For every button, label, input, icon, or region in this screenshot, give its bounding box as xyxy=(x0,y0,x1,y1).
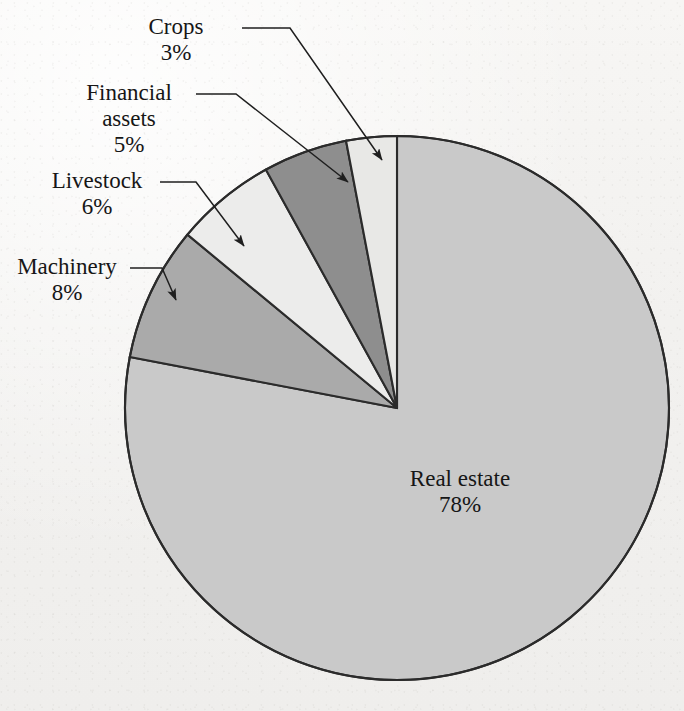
label-machinery: Machinery 8% xyxy=(4,254,130,306)
label-livestock-name: Livestock xyxy=(52,168,143,193)
pie-chart-figure: Crops 3% Financial assets 5% Livestock 6… xyxy=(0,0,684,711)
label-financial-assets-line2: assets xyxy=(66,106,192,132)
label-financial-assets-line1: Financial xyxy=(86,80,172,105)
label-real-estate-name: Real estate xyxy=(410,466,510,491)
label-crops: Crops 3% xyxy=(116,14,236,66)
label-real-estate-percent: 78% xyxy=(380,492,540,518)
label-livestock-percent: 6% xyxy=(36,194,158,220)
label-crops-name: Crops xyxy=(149,14,204,39)
label-financial-assets-percent: 5% xyxy=(66,132,192,158)
label-machinery-name: Machinery xyxy=(17,254,117,279)
label-financial-assets: Financial assets 5% xyxy=(66,80,192,157)
label-livestock: Livestock 6% xyxy=(36,168,158,220)
label-machinery-percent: 8% xyxy=(4,280,130,306)
label-real-estate: Real estate 78% xyxy=(380,466,540,518)
label-crops-percent: 3% xyxy=(116,40,236,66)
